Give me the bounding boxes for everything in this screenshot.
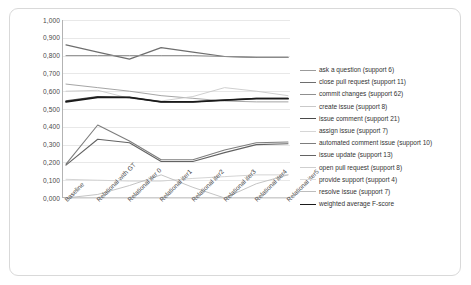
legend-item-label: provide support (support 4) xyxy=(319,176,397,184)
x-axis: BaselineRelational with GTRelational ite… xyxy=(62,198,294,268)
legend-item[interactable]: close pull request (support 11) xyxy=(300,76,462,88)
y-axis-tick-label: 0,100 xyxy=(16,177,60,184)
legend-item[interactable]: provide support (support 4) xyxy=(300,174,462,186)
y-axis-tick-label: 0,000 xyxy=(16,195,60,202)
series-line xyxy=(66,56,288,58)
legend-color-swatch xyxy=(300,118,316,119)
legend-item-label: create issue (support 8) xyxy=(319,103,387,111)
legend-color-swatch xyxy=(300,106,316,107)
legend-item-label: close pull request (support 11) xyxy=(319,78,406,86)
legend-color-swatch xyxy=(300,179,316,180)
y-axis-tick-label: 0,800 xyxy=(16,52,60,59)
y-axis: 1,0000,9000,8000,7000,6000,5000,4000,300… xyxy=(16,14,60,204)
legend-color-swatch xyxy=(300,131,316,132)
legend-item[interactable]: ask a question (support 6) xyxy=(300,64,462,76)
y-axis-tick-label: 0,600 xyxy=(16,88,60,95)
y-axis-tick-label: 0,200 xyxy=(16,159,60,166)
y-axis-tick-label: 0,700 xyxy=(16,70,60,77)
legend-color-swatch xyxy=(300,94,316,95)
y-axis-tick-label: 0,400 xyxy=(16,123,60,130)
legend-item[interactable]: assign issue (support 7) xyxy=(300,125,462,137)
legend-color-swatch xyxy=(300,82,316,83)
y-axis-tick-label: 0,500 xyxy=(16,106,60,113)
legend-color-swatch xyxy=(300,204,316,205)
legend-item-label: resolve issue (support 7) xyxy=(319,188,390,196)
legend-item-label: issue comment (support 21) xyxy=(319,115,400,123)
legend-item-label: ask a question (support 6) xyxy=(319,66,394,74)
legend-item-label: assign issue (support 7) xyxy=(319,127,388,135)
legend-item[interactable]: commit changes (support 62) xyxy=(300,88,462,100)
legend-item-label: commit changes (support 62) xyxy=(319,90,403,98)
legend-item[interactable]: open pull request (support 8) xyxy=(300,162,462,174)
legend-color-swatch xyxy=(300,167,316,168)
chart-container: 1,0000,9000,8000,7000,6000,5000,4000,300… xyxy=(0,0,471,285)
y-axis-tick-label: 0,300 xyxy=(16,141,60,148)
legend-item-label: automated comment issue (support 10) xyxy=(319,139,432,147)
y-axis-tick-label: 0,900 xyxy=(16,34,60,41)
legend-color-swatch xyxy=(300,155,316,156)
chart-legend: ask a question (support 6)close pull req… xyxy=(300,64,462,210)
legend-item[interactable]: weighted average F-score xyxy=(300,198,462,210)
legend-item[interactable]: create issue (support 8) xyxy=(300,101,462,113)
legend-color-swatch xyxy=(300,143,316,144)
series-line xyxy=(66,97,288,101)
legend-item-label: weighted average F-score xyxy=(319,200,394,208)
y-axis-tick-label: 1,000 xyxy=(16,17,60,24)
legend-item[interactable]: issue comment (support 21) xyxy=(300,113,462,125)
legend-item-label: open pull request (support 8) xyxy=(319,164,402,172)
legend-item[interactable]: issue update (support 13) xyxy=(300,149,462,161)
legend-item-label: issue update (support 13) xyxy=(319,151,393,159)
legend-color-swatch xyxy=(300,191,316,192)
legend-item[interactable]: automated comment issue (support 10) xyxy=(300,137,462,149)
legend-color-swatch xyxy=(300,70,316,71)
legend-item[interactable]: resolve issue (support 7) xyxy=(300,186,462,198)
